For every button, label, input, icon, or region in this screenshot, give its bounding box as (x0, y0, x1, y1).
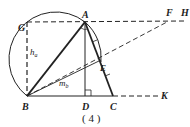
label-E: E (99, 63, 106, 73)
label-A: A (81, 9, 89, 20)
label-D: D (81, 101, 89, 112)
dashed-line-BF (27, 22, 167, 96)
label-h-a: ha (30, 47, 38, 58)
geometry-diagram: A G B D C E F H K ha mb ( 4 ) (0, 0, 190, 127)
label-F: F (165, 7, 173, 18)
label-H: H (180, 7, 190, 18)
segment-AB (27, 22, 85, 96)
label-m-b: mb (59, 78, 69, 89)
right-angle-mark (85, 90, 91, 96)
label-C: C (110, 101, 117, 112)
label-G: G (18, 22, 26, 33)
figure-caption: ( 4 ) (82, 112, 101, 125)
segment-AC (85, 22, 113, 96)
label-K: K (160, 90, 169, 101)
dashed-line-GA-H (27, 21, 184, 22)
label-B: B (21, 101, 29, 112)
